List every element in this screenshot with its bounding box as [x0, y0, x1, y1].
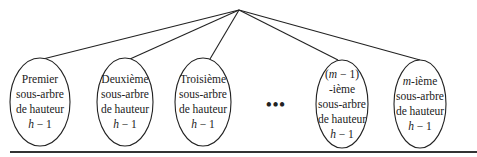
label-line: de hauteur: [179, 102, 227, 117]
label-line: -ième: [318, 82, 366, 97]
subtree-label-s5: m-ièmesous-arbrede hauteurh − 1: [396, 74, 444, 134]
label-line: h − 1: [396, 119, 444, 134]
tree-edge: [210, 10, 239, 59]
subtree-label-s3: Troisièmesous-arbrede hauteurh − 1: [179, 72, 227, 132]
label-line: h − 1: [179, 117, 227, 132]
label-line: (m − 1): [318, 67, 366, 82]
label-line: sous-arbre: [16, 87, 64, 102]
label-line: de hauteur: [396, 104, 444, 119]
baseline-rule: [10, 151, 477, 153]
label-line: Premier: [16, 72, 64, 87]
subtree-label-s4: (m − 1)-ièmesous-arbrede hauteurh − 1: [318, 67, 366, 142]
label-line: sous-arbre: [179, 87, 227, 102]
label-line: de hauteur: [318, 112, 366, 127]
label-line: sous-arbre: [318, 97, 366, 112]
subtree-label-s2: Deuxièmesous-arbrede hauteurh − 1: [101, 72, 149, 132]
label-line: sous-arbre: [396, 89, 444, 104]
label-line: de hauteur: [101, 102, 149, 117]
tree-edges: [43, 10, 420, 60]
label-line: de hauteur: [16, 102, 64, 117]
tree-edge: [239, 10, 420, 60]
tree-edge: [43, 10, 239, 59]
label-line: h − 1: [16, 117, 64, 132]
ellipsis-dots: •••: [266, 96, 286, 114]
label-line: sous-arbre: [101, 87, 149, 102]
tree-edge: [130, 10, 239, 59]
label-line: Deuxième: [101, 72, 149, 87]
subtree-nodes: [10, 58, 446, 148]
tree-edge: [239, 10, 338, 60]
label-line: h − 1: [318, 127, 366, 142]
label-line: h − 1: [101, 117, 149, 132]
subtree-label-s1: Premiersous-arbrede hauteurh − 1: [16, 72, 64, 132]
label-line: m-ième: [396, 74, 444, 89]
label-line: Troisième: [179, 72, 227, 87]
